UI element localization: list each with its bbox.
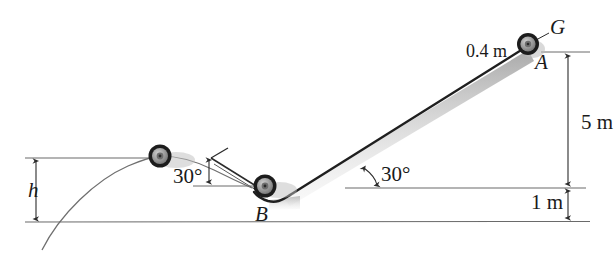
physics-diagram-figure: G A 0.4 m 5 m 1 m h B 30° 30° (0, 0, 616, 255)
wheel-g-leader-line (536, 33, 549, 40)
label-ramp-angle: 30° (173, 166, 202, 187)
diagram-vector-canvas (0, 0, 616, 255)
label-wheel-radius: 0.4 m (466, 42, 507, 60)
label-5m: 5 m (581, 112, 613, 133)
projectile-trajectory (42, 156, 252, 250)
label-G: G (550, 17, 565, 38)
ground-datum-line (25, 222, 590, 223)
incline-shadow (268, 50, 534, 210)
label-h: h (28, 180, 39, 201)
label-incline-angle: 30° (381, 164, 410, 185)
wheel-at-B (254, 175, 298, 199)
incline-angle-indicator (364, 168, 377, 185)
label-B: B (255, 204, 268, 225)
label-A: A (535, 52, 548, 73)
launch-ramp (211, 148, 256, 190)
label-1m: 1 m (531, 192, 563, 213)
